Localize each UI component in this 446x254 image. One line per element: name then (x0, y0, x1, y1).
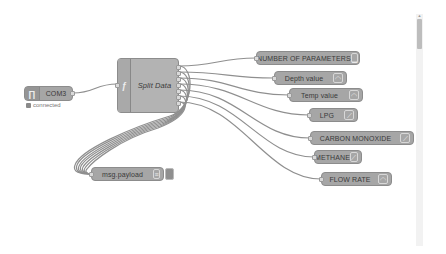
output-port-2[interactable] (176, 71, 181, 76)
chart-icon: ⟋ (400, 133, 410, 143)
input-port[interactable] (308, 136, 313, 141)
node-label: METHANE (315, 154, 350, 161)
output-port-3[interactable] (176, 77, 181, 82)
output-port[interactable] (70, 91, 75, 96)
scrollbar-thumb[interactable] (417, 19, 422, 49)
input-port[interactable] (287, 93, 292, 98)
status-dot-icon (26, 103, 31, 108)
node-label: Depth value (275, 75, 333, 82)
status-text: connected (33, 102, 61, 108)
status-badge: connected (26, 102, 61, 108)
node-label: COM3 (40, 90, 72, 97)
scroll-up-icon[interactable]: ▲ (417, 14, 422, 18)
wire-out1[interactable] (179, 58, 256, 66)
debug-list-icon: ≡ (153, 169, 160, 179)
gauge-icon: ◠ (378, 174, 388, 184)
wire-out7[interactable] (179, 102, 321, 179)
wire-out2[interactable] (179, 72, 274, 78)
serial-in-node[interactable]: ∏ COM3 (24, 86, 73, 101)
gauge-node-temp-value[interactable]: Temp value ◠ (289, 88, 363, 102)
gauge-icon: ◠ (349, 90, 359, 100)
node-label: FLOW RATE (322, 176, 378, 183)
input-port[interactable] (319, 177, 324, 182)
wire-serial-to-function[interactable] (73, 84, 117, 93)
input-port[interactable] (312, 155, 317, 160)
text-node-number-of-parameters[interactable]: NUMBER OF PARAMETERS ▁ (256, 51, 360, 65)
flow-canvas[interactable]: ∏ COM3 connected ƒ Split Data NUMBER OF … (0, 0, 446, 254)
debug-toggle-button[interactable] (165, 168, 174, 180)
function-node[interactable]: ƒ Split Data (117, 58, 179, 113)
wires (0, 0, 446, 254)
chart-node-methane[interactable]: METHANE ⟋ (314, 150, 362, 164)
node-label: LPG (310, 112, 344, 119)
output-port-1[interactable] (176, 65, 181, 70)
node-label: NUMBER OF PARAMETERS (257, 55, 351, 62)
debug-node[interactable]: msg.payload ≡ (91, 167, 164, 181)
gauge-icon: ◠ (333, 73, 343, 83)
node-label: msg.payload (92, 171, 153, 178)
node-label: CARBON MONOXIDE (311, 135, 400, 142)
vertical-scrollbar[interactable]: ▲ (416, 14, 423, 246)
chart-icon: ⟋ (344, 110, 354, 120)
chart-icon: ⟋ (350, 152, 358, 162)
serial-port-icon: ∏ (25, 87, 40, 100)
input-port[interactable] (272, 76, 277, 81)
input-port[interactable] (307, 113, 312, 118)
output-port-4[interactable] (176, 83, 181, 88)
gauge-node-flow-rate[interactable]: FLOW RATE ◠ (321, 172, 392, 186)
input-port[interactable] (89, 172, 94, 177)
chart-node-lpg[interactable]: LPG ⟋ (309, 108, 358, 122)
output-port-7[interactable] (176, 101, 181, 106)
node-label: Split Data (131, 81, 178, 90)
input-port[interactable] (115, 83, 120, 88)
text-icon: ▁ (351, 53, 358, 63)
node-label: Temp value (290, 92, 349, 99)
chart-node-carbon-monoxide[interactable]: CARBON MONOXIDE ⟋ (310, 131, 414, 145)
gauge-node-depth-value[interactable]: Depth value ◠ (274, 71, 347, 85)
input-port[interactable] (254, 56, 259, 61)
output-port-6[interactable] (176, 95, 181, 100)
output-port-5[interactable] (176, 89, 181, 94)
